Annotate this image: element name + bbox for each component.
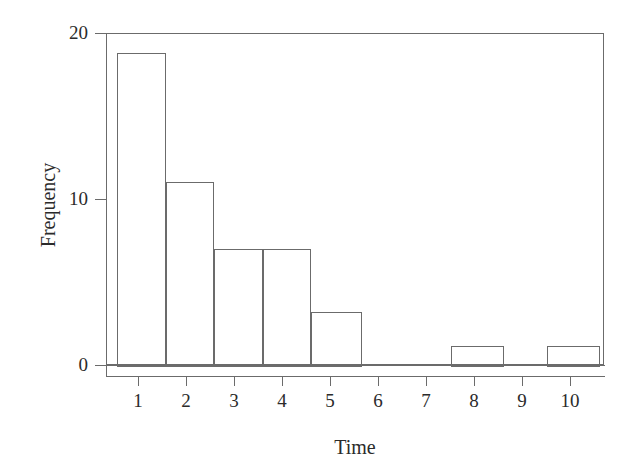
y-tick-mark-0	[95, 365, 106, 366]
x-tick-label-8: 8	[454, 391, 494, 411]
bar-bin-8	[451, 346, 504, 367]
plot-area	[106, 33, 604, 365]
x-axis-spine	[106, 376, 605, 377]
y-axis-title: Frequency	[38, 105, 58, 305]
x-tick-mark-5	[330, 377, 331, 386]
x-axis-title: Time	[106, 436, 604, 458]
x-tick-mark-9	[522, 377, 523, 386]
x-tick-mark-7	[426, 377, 427, 386]
x-tick-mark-4	[282, 377, 283, 386]
x-tick-mark-3	[234, 377, 235, 386]
bar-bin-2	[166, 182, 214, 367]
bar-bin-4	[263, 249, 311, 367]
y-tick-mark-20	[95, 33, 106, 34]
y-tick-label-0: 0	[46, 355, 88, 374]
x-tick-label-4: 4	[262, 391, 302, 411]
x-tick-label-10: 10	[550, 391, 590, 411]
x-tick-label-9: 9	[502, 391, 542, 411]
x-tick-mark-6	[378, 377, 379, 386]
x-tick-label-5: 5	[310, 391, 350, 411]
x-tick-label-7: 7	[406, 391, 446, 411]
x-tick-label-2: 2	[166, 391, 206, 411]
x-tick-mark-1	[138, 377, 139, 386]
x-tick-mark-10	[570, 377, 571, 386]
x-tick-label-6: 6	[358, 391, 398, 411]
x-tick-label-1: 1	[118, 391, 158, 411]
y-tick-mark-10	[95, 199, 106, 200]
histogram-figure: 20 10 0 1 2 3 4 5 6 7 8 9 10 Frequency T…	[0, 0, 636, 475]
y-tick-label-20: 20	[46, 23, 88, 42]
zero-baseline	[106, 365, 605, 366]
bar-bin-3	[214, 249, 263, 367]
bar-bin-10	[547, 346, 600, 367]
x-tick-mark-2	[186, 377, 187, 386]
bar-bin-5	[311, 312, 362, 367]
x-tick-label-3: 3	[214, 391, 254, 411]
bar-bin-1	[117, 53, 166, 367]
x-tick-mark-8	[474, 377, 475, 386]
